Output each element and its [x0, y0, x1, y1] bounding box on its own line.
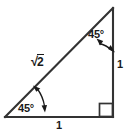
radical-expression: √2 — [31, 55, 44, 68]
angle-arc-bottom-left-icon — [33, 86, 47, 113]
side-label-hypotenuse: √2 — [31, 55, 44, 68]
triangle-outline — [5, 8, 113, 117]
side-label-horizontal-leg: 1 — [56, 120, 62, 131]
right-angle-square-icon — [100, 104, 113, 117]
radicand-value: 2 — [37, 54, 44, 69]
side-label-vertical-leg: 1 — [117, 59, 123, 70]
angle-label-bottom-left: 45° — [18, 103, 34, 114]
hypotenuse-line — [5, 8, 113, 117]
angle-label-top: 45° — [88, 29, 104, 40]
triangle-diagram: 45° 45° 1 1 √2 — [0, 0, 129, 134]
